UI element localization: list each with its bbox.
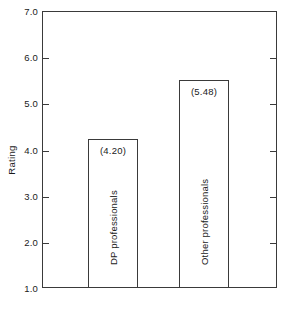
y-axis-tick-label: 4.0 <box>12 144 38 155</box>
y-axis-tick <box>43 151 49 152</box>
y-axis-tick <box>43 197 49 198</box>
bar-chart-figure: Rating 7.06.05.04.03.02.01.0 (4.20)DP pr… <box>0 0 284 309</box>
y-axis-tick-labels: 7.06.05.04.03.02.01.0 <box>12 0 38 309</box>
y-axis-tick-label: 7.0 <box>12 6 38 17</box>
y-axis-tick-label: 5.0 <box>12 98 38 109</box>
plot-area: (4.20)DP professionals(5.48)Other profes… <box>42 11 277 288</box>
y-axis-tick-label: 3.0 <box>12 190 38 201</box>
bar: (4.20)DP professionals <box>88 139 138 287</box>
bar-category-label: Other professionals <box>199 179 210 265</box>
bar: (5.48)Other professionals <box>179 80 229 287</box>
y-axis-tick-label: 2.0 <box>12 236 38 247</box>
y-axis-tick <box>270 58 276 59</box>
y-axis-tick-label: 6.0 <box>12 52 38 63</box>
y-axis-tick <box>270 151 276 152</box>
y-axis-tick <box>43 104 49 105</box>
y-axis-tick <box>270 197 276 198</box>
y-axis-tick-label: 1.0 <box>12 283 38 294</box>
y-axis-tick <box>270 243 276 244</box>
y-axis-tick <box>270 104 276 105</box>
y-axis-tick <box>43 243 49 244</box>
bar-category-label: DP professionals <box>108 190 119 265</box>
bar-value-label: (5.48) <box>180 86 228 97</box>
y-axis-tick <box>43 58 49 59</box>
bar-value-label: (4.20) <box>89 145 137 156</box>
